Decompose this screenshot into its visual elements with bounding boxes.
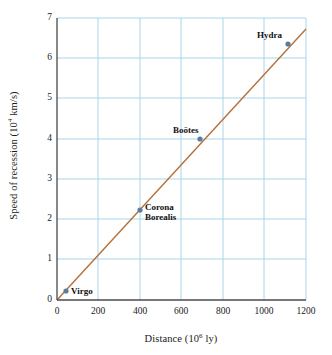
x-axis-title-main: Distance (10: [145, 333, 200, 344]
annotation-hydra: Hydra: [257, 30, 282, 41]
x-axis-title-tail: ly): [203, 333, 218, 344]
y-axis-title-tail: km/s): [8, 91, 19, 118]
y-axis-title-exponent: 4: [6, 118, 14, 122]
annotation-bootes: Boötes: [173, 125, 199, 136]
y-tick-2: 2: [32, 213, 52, 223]
y-tick-4: 4: [32, 133, 52, 143]
x-tick-800: 800: [203, 306, 243, 316]
x-axis-title: Distance (106 ly): [55, 333, 307, 344]
data-point-corona-borealis[interactable]: [137, 207, 142, 212]
y-tick-0: 0: [32, 294, 52, 304]
x-tick-600: 600: [161, 306, 201, 316]
y-tick-7: 7: [32, 12, 52, 22]
x-tick-400: 400: [120, 306, 160, 316]
y-tick-1: 1: [32, 253, 52, 263]
hubble-law-chart: 7 6 5 4 3 2 1 0 0 200 400 600 800 1000 1…: [0, 0, 332, 355]
x-tick-1200: 1200: [286, 306, 326, 316]
annotation-borealis: Borealis: [145, 212, 176, 223]
annotation-virgo: Virgo: [71, 286, 93, 297]
data-point-bootes[interactable]: [197, 136, 202, 141]
y-tick-6: 6: [32, 52, 52, 62]
y-tick-3: 3: [32, 173, 52, 183]
y-axis-title-main: Speed of recession (10: [8, 122, 19, 220]
y-axis-title: Speed of recession (104 km/s): [8, 66, 19, 246]
data-point-virgo[interactable]: [63, 288, 68, 293]
y-tick-5: 5: [32, 92, 52, 102]
data-point-hydra[interactable]: [285, 41, 290, 46]
x-tick-0: 0: [37, 306, 77, 316]
annotation-corona: Corona: [145, 202, 174, 213]
x-tick-200: 200: [78, 306, 118, 316]
x-tick-1000: 1000: [244, 306, 284, 316]
